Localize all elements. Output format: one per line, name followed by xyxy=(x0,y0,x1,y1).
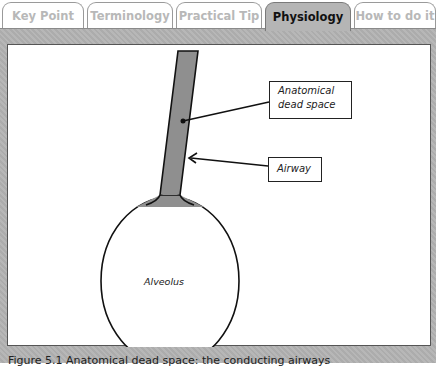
tab-how-to-do-it[interactable]: How to do it xyxy=(354,2,436,29)
dead-space-label: Anatomical dead space xyxy=(269,81,352,119)
tab-label: How to do it xyxy=(355,9,434,23)
airway-label: Airway xyxy=(268,157,322,182)
content-panel: Anatomical dead space Airway Alveolus Fi… xyxy=(0,28,436,363)
dead-space-diagram xyxy=(8,45,432,347)
tab-bar: Key Point Terminology Practical Tip Phys… xyxy=(0,0,436,29)
airway-pointer xyxy=(191,158,268,166)
tab-label: Practical Tip xyxy=(179,9,260,23)
dead-space-label-line1: Anatomical xyxy=(278,84,343,98)
tab-practical-tip[interactable]: Practical Tip xyxy=(176,2,262,29)
tab-label: Terminology xyxy=(90,9,169,23)
alveolus-label: Alveolus xyxy=(144,276,184,287)
tab-label: Physiology xyxy=(273,10,343,24)
figure-caption: Figure 5.1 Anatomical dead space: the co… xyxy=(8,354,330,367)
figure-frame: Anatomical dead space Airway Alveolus xyxy=(7,44,431,346)
tab-key-point[interactable]: Key Point xyxy=(2,2,84,29)
alveolus-shape xyxy=(101,197,239,347)
airway-tube xyxy=(160,51,198,195)
tab-label: Key Point xyxy=(12,9,74,23)
dead-space-label-line2: dead space xyxy=(278,98,343,112)
tab-terminology[interactable]: Terminology xyxy=(87,2,173,29)
dead-space-pointer xyxy=(183,102,269,121)
tab-physiology[interactable]: Physiology xyxy=(265,2,351,31)
